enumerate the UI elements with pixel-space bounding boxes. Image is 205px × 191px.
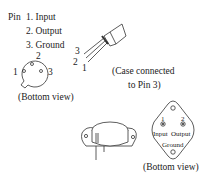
to92-side-pin3-label: 3 xyxy=(75,46,80,56)
to3-pin1-number: 1 xyxy=(161,114,165,124)
to92-pin2-label: 2 xyxy=(36,51,41,61)
to92-side-view-icon xyxy=(84,24,126,62)
to92-pin1-label: 1 xyxy=(13,67,18,77)
legend-item-output: 2. Output xyxy=(26,26,62,36)
to92-bottom-view-icon xyxy=(21,61,48,88)
to92-bottom-caption: (Bottom view) xyxy=(18,92,74,102)
to3-input-label: Input xyxy=(153,129,168,139)
legend-item-input: 1. Input xyxy=(26,12,56,22)
to92-side-pin1-label: 1 xyxy=(82,63,87,73)
case-note-line1: (Case connected xyxy=(112,66,175,76)
case-note-line2: to Pin 3) xyxy=(128,80,161,90)
to3-pin2-number: 2 xyxy=(181,114,185,124)
to3-side-view-icon xyxy=(82,122,137,160)
to3-bottom-caption: (Bottom view) xyxy=(143,162,199,172)
legend-prefix: Pin xyxy=(8,12,21,22)
to92-pin3-label: 3 xyxy=(48,67,53,77)
to3-output-label: Output xyxy=(171,129,190,139)
to92-side-pin2-label: 2 xyxy=(73,57,78,67)
to3-ground-label: Ground xyxy=(162,140,183,150)
legend-item-ground: 3. Ground xyxy=(26,40,65,50)
